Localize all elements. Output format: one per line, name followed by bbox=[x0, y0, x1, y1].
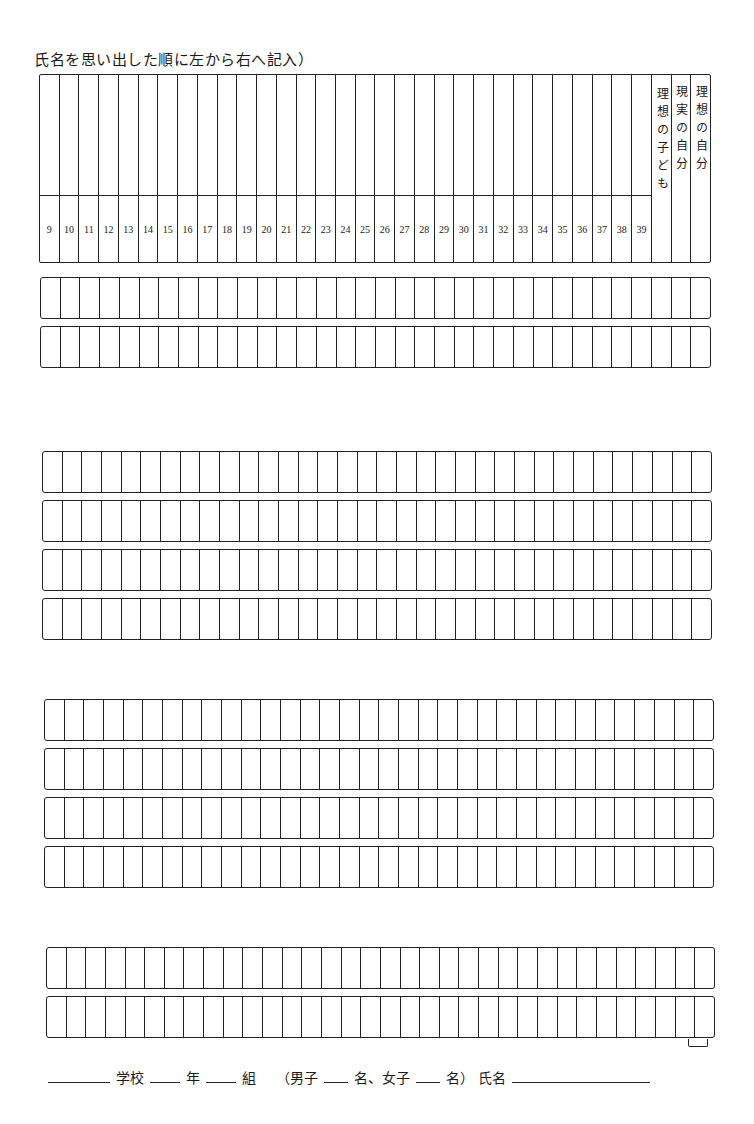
response-cell[interactable] bbox=[635, 749, 655, 789]
response-cell[interactable] bbox=[337, 327, 357, 367]
response-cell[interactable] bbox=[102, 550, 122, 590]
response-cell[interactable] bbox=[360, 749, 380, 789]
response-cell[interactable] bbox=[318, 452, 338, 492]
response-cell[interactable] bbox=[615, 700, 635, 740]
response-cell[interactable] bbox=[259, 501, 279, 541]
response-cell[interactable] bbox=[340, 847, 360, 887]
response-cell[interactable] bbox=[419, 798, 439, 838]
response-cell[interactable] bbox=[633, 452, 653, 492]
response-cell[interactable] bbox=[277, 278, 297, 318]
response-cell[interactable] bbox=[297, 327, 317, 367]
response-cell[interactable] bbox=[320, 847, 340, 887]
response-cell[interactable] bbox=[673, 599, 693, 639]
response-cell[interactable] bbox=[399, 700, 419, 740]
response-cell[interactable] bbox=[47, 997, 67, 1037]
response-cell[interactable] bbox=[163, 798, 183, 838]
response-cell[interactable] bbox=[159, 327, 179, 367]
response-cell[interactable] bbox=[261, 700, 281, 740]
response-cell[interactable] bbox=[435, 327, 455, 367]
response-cell[interactable] bbox=[200, 501, 220, 541]
response-cell[interactable] bbox=[45, 798, 65, 838]
response-cell[interactable] bbox=[106, 997, 126, 1037]
response-cell[interactable] bbox=[675, 749, 695, 789]
class-field[interactable] bbox=[206, 1066, 236, 1083]
response-cell[interactable] bbox=[184, 948, 204, 988]
response-cell[interactable] bbox=[537, 749, 557, 789]
response-cell[interactable] bbox=[399, 847, 419, 887]
response-cell[interactable] bbox=[553, 327, 573, 367]
response-cell[interactable] bbox=[497, 798, 517, 838]
response-cell[interactable] bbox=[381, 948, 401, 988]
response-cell[interactable] bbox=[261, 749, 281, 789]
name-entry-cell[interactable] bbox=[40, 75, 59, 196]
response-cell[interactable] bbox=[238, 278, 258, 318]
response-cell[interactable] bbox=[184, 997, 204, 1037]
response-cell[interactable] bbox=[301, 798, 321, 838]
response-cell[interactable] bbox=[358, 599, 378, 639]
response-cell[interactable] bbox=[61, 278, 81, 318]
response-cell[interactable] bbox=[652, 327, 672, 367]
response-cell[interactable] bbox=[204, 997, 224, 1037]
response-cell[interactable] bbox=[141, 599, 161, 639]
response-cell[interactable] bbox=[86, 948, 106, 988]
response-cell[interactable] bbox=[676, 997, 696, 1037]
response-cell[interactable] bbox=[45, 749, 65, 789]
response-cell[interactable] bbox=[317, 278, 337, 318]
response-cell[interactable] bbox=[45, 700, 65, 740]
response-cell[interactable] bbox=[673, 501, 693, 541]
response-cell[interactable] bbox=[379, 847, 399, 887]
response-cell[interactable] bbox=[220, 550, 240, 590]
response-cell[interactable] bbox=[632, 278, 652, 318]
response-cell[interactable] bbox=[594, 550, 614, 590]
response-cell[interactable] bbox=[258, 278, 278, 318]
response-cell[interactable] bbox=[655, 700, 675, 740]
response-cell[interactable] bbox=[692, 501, 711, 541]
girls-count-field[interactable] bbox=[416, 1066, 440, 1083]
response-cell[interactable] bbox=[263, 948, 283, 988]
name-entry-cell[interactable] bbox=[158, 75, 177, 196]
response-cell[interactable] bbox=[458, 749, 478, 789]
response-cell[interactable] bbox=[377, 599, 397, 639]
response-cell[interactable] bbox=[360, 700, 380, 740]
response-cell[interactable] bbox=[675, 700, 695, 740]
response-cell[interactable] bbox=[84, 798, 104, 838]
name-entry-cell[interactable] bbox=[99, 75, 118, 196]
response-cell[interactable] bbox=[672, 327, 692, 367]
response-cell[interactable] bbox=[218, 278, 238, 318]
response-cell[interactable] bbox=[577, 948, 597, 988]
response-cell[interactable] bbox=[281, 700, 301, 740]
response-cell[interactable] bbox=[401, 948, 421, 988]
response-cell[interactable] bbox=[635, 700, 655, 740]
response-cell[interactable] bbox=[655, 798, 675, 838]
name-entry-cell[interactable] bbox=[79, 75, 98, 196]
response-cell[interactable] bbox=[458, 847, 478, 887]
grade-field[interactable] bbox=[150, 1066, 180, 1083]
response-cell[interactable] bbox=[436, 599, 456, 639]
response-cell[interactable] bbox=[596, 749, 616, 789]
response-cell[interactable] bbox=[558, 948, 578, 988]
response-cell[interactable] bbox=[358, 501, 378, 541]
response-cell[interactable] bbox=[43, 599, 63, 639]
response-cell[interactable] bbox=[556, 700, 576, 740]
response-cell[interactable] bbox=[652, 278, 672, 318]
response-cell[interactable] bbox=[537, 700, 557, 740]
name-entry-cell[interactable] bbox=[435, 75, 454, 196]
response-cell[interactable] bbox=[535, 501, 555, 541]
response-cell[interactable] bbox=[436, 452, 456, 492]
response-cell[interactable] bbox=[82, 599, 102, 639]
response-cell[interactable] bbox=[65, 798, 85, 838]
response-cell[interactable] bbox=[45, 847, 65, 887]
response-cell[interactable] bbox=[415, 327, 435, 367]
response-cell[interactable] bbox=[84, 847, 104, 887]
response-cell[interactable] bbox=[479, 997, 499, 1037]
response-cell[interactable] bbox=[556, 798, 576, 838]
response-cell[interactable] bbox=[283, 948, 303, 988]
response-cell[interactable] bbox=[202, 847, 222, 887]
response-cell[interactable] bbox=[438, 700, 458, 740]
response-cell[interactable] bbox=[165, 997, 185, 1037]
response-cell[interactable] bbox=[337, 278, 357, 318]
response-cell[interactable] bbox=[458, 700, 478, 740]
name-entry-cell[interactable] bbox=[375, 75, 394, 196]
response-cell[interactable] bbox=[41, 327, 61, 367]
response-cell[interactable] bbox=[340, 700, 360, 740]
